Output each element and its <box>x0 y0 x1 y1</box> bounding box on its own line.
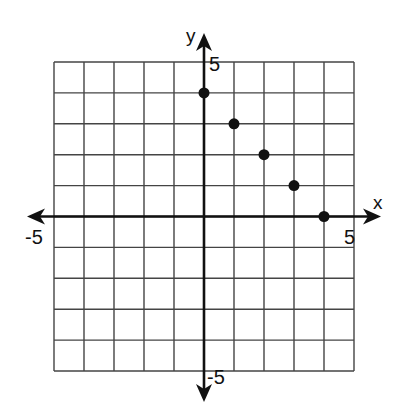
y-tick-label-min: -5 <box>207 366 225 388</box>
data-point <box>289 180 300 191</box>
data-point <box>319 211 330 222</box>
y-axis-label: y <box>186 25 196 46</box>
y-tick-label-max: 5 <box>209 53 220 75</box>
data-point <box>199 87 210 98</box>
x-tick-label-max: 5 <box>344 226 355 248</box>
coordinate-plane: x y -5 5 5 -5 <box>0 0 402 420</box>
data-point <box>229 118 240 129</box>
x-tick-label-min: -5 <box>25 226 43 248</box>
x-axis-label: x <box>373 192 383 213</box>
data-point <box>259 149 270 160</box>
